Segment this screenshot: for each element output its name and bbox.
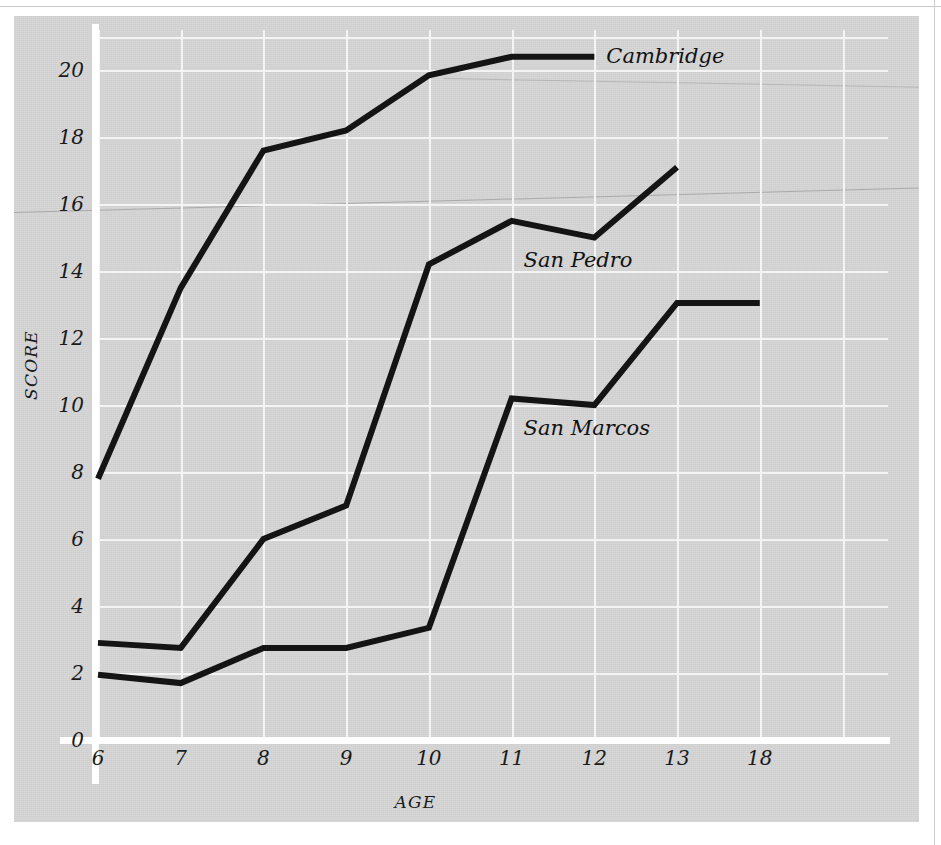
gridline-vertical <box>263 30 265 740</box>
gridline-vertical <box>181 30 183 740</box>
gridline-horizontal <box>98 271 888 273</box>
y-tick-label: 6 <box>71 529 84 549</box>
series-label-san-pedro: San Pedro <box>524 250 633 271</box>
x-tick-label: 10 <box>416 748 441 768</box>
series-label-cambridge: Cambridge <box>606 46 724 67</box>
y-tick-label: 8 <box>71 462 84 482</box>
gridline-horizontal <box>98 606 888 608</box>
x-tick-label: 6 <box>92 748 105 768</box>
y-tick-label: 18 <box>59 127 84 147</box>
y-tick-label: 4 <box>71 596 84 616</box>
gridline-vertical <box>843 30 845 740</box>
x-tick-label: 13 <box>664 748 689 768</box>
x-tick-label: 8 <box>257 748 270 768</box>
gridline-horizontal <box>98 137 888 139</box>
x-tick-label: 7 <box>174 748 187 768</box>
x-tick-label: 9 <box>340 748 353 768</box>
y-tick-label: 16 <box>59 194 84 214</box>
y-tick-label: 0 <box>71 730 84 750</box>
y-axis-line <box>92 24 99 784</box>
x-tick-label: 12 <box>582 748 607 768</box>
gridline-vertical <box>512 30 514 740</box>
gridline-horizontal <box>98 472 888 474</box>
y-tick-label: 2 <box>71 663 84 683</box>
gridline-vertical <box>429 30 431 740</box>
scan-rule-top <box>0 6 941 7</box>
scan-rule-right <box>934 0 935 845</box>
gridline-horizontal <box>98 539 888 541</box>
plot-area <box>98 30 888 740</box>
x-axis-title-text: AGE <box>395 792 437 812</box>
y-axis-title: SCORE <box>21 330 41 400</box>
y-tick-label: 10 <box>59 395 84 415</box>
x-axis-title: AGE <box>0 792 941 812</box>
x-tick-label: 18 <box>747 748 772 768</box>
gridline-horizontal <box>98 673 888 675</box>
gridline-horizontal <box>98 70 888 72</box>
gridline-horizontal <box>98 37 888 39</box>
chart-page: 02468101214161820 67891011121318 SCORE A… <box>0 0 941 845</box>
gridline-horizontal <box>98 204 888 206</box>
y-tick-label: 12 <box>59 328 84 348</box>
series-label-san-marcos: San Marcos <box>524 418 650 439</box>
x-tick-label: 11 <box>499 748 524 768</box>
gridline-vertical <box>760 30 762 740</box>
gridline-vertical <box>594 30 596 740</box>
gridline-vertical <box>346 30 348 740</box>
x-axis-line <box>60 737 890 744</box>
y-tick-label: 20 <box>59 60 84 80</box>
y-axis-tick-labels: 02468101214161820 <box>40 0 84 845</box>
gridline-horizontal <box>98 405 888 407</box>
gridline-horizontal <box>98 338 888 340</box>
y-tick-label: 14 <box>59 261 84 281</box>
gridline-vertical <box>677 30 679 740</box>
